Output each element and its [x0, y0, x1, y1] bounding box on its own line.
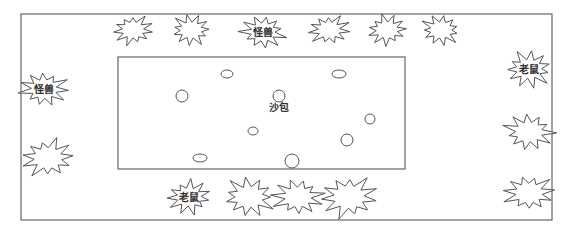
- sandbag-circle: [176, 90, 188, 102]
- star-burst-icon: [23, 138, 73, 176]
- sandbag-circle: [221, 70, 233, 78]
- monster-label: 怪兽: [34, 83, 54, 95]
- diagram-canvas: 怪兽怪兽老鼠老鼠 沙包: [0, 0, 572, 233]
- mouse-label: 老鼠: [178, 191, 199, 203]
- star-burst-icon: [322, 178, 377, 219]
- sandbag-label: 沙包: [269, 101, 289, 113]
- star-burst-icon: [503, 114, 557, 149]
- star-burst-icon: [369, 14, 407, 47]
- star-burst-icon: [308, 16, 350, 43]
- circles-group: [176, 70, 375, 168]
- sandbag-circle: [285, 154, 299, 168]
- star-burst-icon: [503, 177, 554, 208]
- star-burst-icon: [174, 15, 209, 46]
- star-burst-icon: [227, 177, 274, 215]
- sandbag-circle: [193, 154, 207, 162]
- sandbag-circle: [341, 134, 353, 146]
- stars-group: 怪兽怪兽老鼠老鼠: [18, 14, 557, 219]
- star-burst-icon: [270, 180, 325, 213]
- sandbag-circle: [248, 127, 258, 135]
- mouse-label: 老鼠: [518, 63, 539, 75]
- sandbag-circle: [273, 90, 285, 102]
- sandbag-area: [118, 57, 405, 169]
- sandbag-circle: [365, 114, 375, 124]
- sandbag-circle: [332, 70, 346, 78]
- monster-label: 怪兽: [253, 26, 273, 38]
- star-burst-icon: [422, 16, 457, 46]
- star-burst-icon: [114, 16, 153, 46]
